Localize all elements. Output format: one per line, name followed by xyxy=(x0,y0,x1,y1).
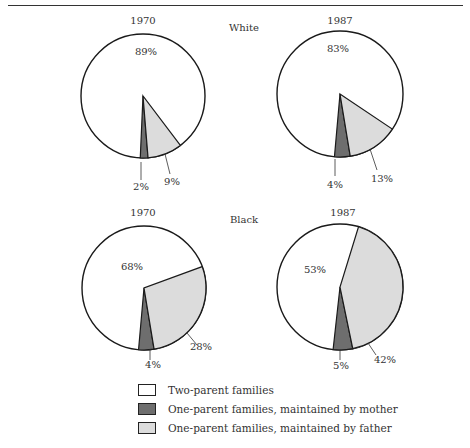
group-label-white: White xyxy=(229,22,259,33)
pie-title: 1987 xyxy=(330,207,355,218)
label-father: 28% xyxy=(190,341,212,352)
pie-black-1987: 1987 53%5%42% xyxy=(277,207,403,371)
label-mother: 4% xyxy=(145,359,161,370)
label-father: 13% xyxy=(371,173,393,184)
legend-item-father: One-parent families, maintained by fathe… xyxy=(138,418,398,437)
pie-title: 1970 xyxy=(130,15,155,26)
pie-white-1970: 1970 89%2%9% xyxy=(81,15,205,192)
legend-swatch-light xyxy=(138,422,156,434)
legend-item-mother: One-parent families, maintained by mothe… xyxy=(138,399,398,418)
label-mother: 4% xyxy=(327,179,343,190)
label-mother: 2% xyxy=(133,181,149,192)
pie-black-1970: 1970 68%4%28% xyxy=(82,207,212,370)
leader-line xyxy=(165,154,170,174)
label-two-parent: 68% xyxy=(121,261,143,272)
pie-title: 1987 xyxy=(327,15,352,26)
label-two-parent: 83% xyxy=(327,43,349,54)
label-father: 42% xyxy=(374,354,396,365)
pie-white-1987: 1987 83%4%13% xyxy=(277,15,403,190)
legend-swatch-white xyxy=(138,384,156,396)
label-two-parent: 89% xyxy=(135,46,157,57)
legend-label: One-parent families, maintained by mothe… xyxy=(168,403,398,415)
legend-label: One-parent families, maintained by fathe… xyxy=(168,422,392,434)
group-label-black: Black xyxy=(230,214,259,225)
label-father: 9% xyxy=(164,176,180,187)
pie-title: 1970 xyxy=(130,207,155,218)
legend-swatch-dark xyxy=(138,403,156,415)
legend-label: Two-parent families xyxy=(168,384,274,396)
legend: Two-parent families One-parent families,… xyxy=(138,380,398,437)
label-two-parent: 53% xyxy=(304,264,326,275)
leader-line xyxy=(370,149,377,170)
legend-item-two-parent: Two-parent families xyxy=(138,380,398,399)
label-mother: 5% xyxy=(333,360,349,371)
